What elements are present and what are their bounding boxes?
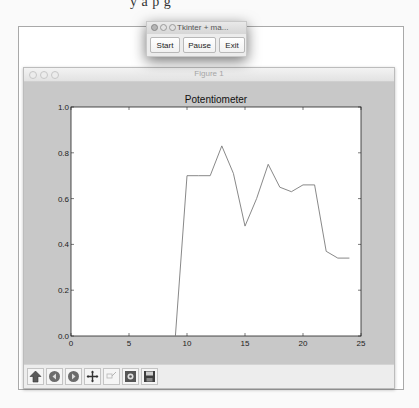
- line-chart: Potentiometer05101520250.00.20.40.60.81.…: [24, 82, 394, 364]
- y-tick-label: 0.4: [58, 240, 70, 249]
- back-button[interactable]: [46, 368, 63, 385]
- x-tick-label: 10: [183, 339, 192, 348]
- y-tick-label: 0.8: [58, 149, 70, 158]
- figure-canvas[interactable]: Potentiometer05101520250.00.20.40.60.81.…: [24, 82, 394, 364]
- pan-button[interactable]: [84, 368, 101, 385]
- save-button[interactable]: [141, 368, 158, 385]
- x-tick-label: 0: [69, 339, 74, 348]
- navigation-toolbar: [24, 364, 394, 388]
- figure-titlebar[interactable]: Figure 1: [24, 68, 394, 82]
- figure-window: Figure 1 Potentiometer05101520250.00.20.…: [23, 67, 395, 389]
- plot-area: [71, 107, 361, 336]
- minimize-icon[interactable]: [160, 24, 167, 31]
- background-page-text: y a p g: [130, 0, 171, 10]
- y-tick-label: 0.6: [58, 195, 70, 204]
- y-tick-label: 1.0: [58, 103, 70, 112]
- y-tick-label: 0.0: [58, 332, 70, 341]
- pan-icon: [86, 370, 99, 383]
- tkinter-title: Tkinter + ma...: [177, 23, 228, 32]
- x-tick-label: 5: [127, 339, 132, 348]
- back-icon: [48, 370, 61, 383]
- x-tick-label: 15: [241, 339, 250, 348]
- forward-button[interactable]: [65, 368, 82, 385]
- figure-title: Figure 1: [24, 69, 394, 78]
- configure-subplots-button[interactable]: [122, 368, 139, 385]
- screen: y a p g Figure 1 Potentiometer0510152025…: [0, 0, 419, 408]
- start-button[interactable]: Start: [150, 37, 180, 53]
- home-icon: [29, 370, 42, 383]
- tkinter-titlebar[interactable]: Tkinter + ma...: [147, 22, 246, 34]
- zoom-icon: [105, 370, 118, 383]
- chart-title: Potentiometer: [185, 94, 248, 105]
- save-icon: [143, 370, 156, 383]
- configure-subplots-icon: [124, 370, 137, 383]
- zoom-window-icon[interactable]: [169, 24, 176, 31]
- exit-button[interactable]: Exit: [219, 37, 245, 53]
- tkinter-window: Tkinter + ma... Start Pause Exit: [146, 21, 247, 57]
- pause-button[interactable]: Pause: [183, 37, 216, 53]
- y-tick-label: 0.2: [58, 286, 70, 295]
- forward-icon: [67, 370, 80, 383]
- close-icon[interactable]: [151, 24, 158, 31]
- x-tick-label: 25: [357, 339, 366, 348]
- home-button[interactable]: [27, 368, 44, 385]
- x-tick-label: 20: [299, 339, 308, 348]
- zoom-rect-button[interactable]: [103, 368, 120, 385]
